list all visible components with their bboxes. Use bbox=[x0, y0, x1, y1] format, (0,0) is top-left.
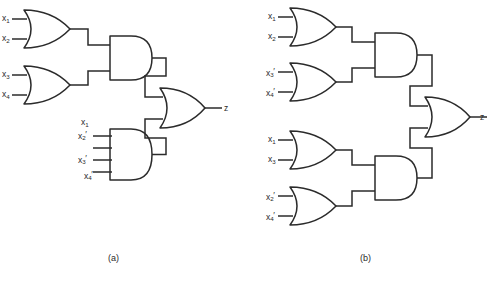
gate-b-and-1 bbox=[375, 33, 417, 77]
label-a-and2-input-x1: x1 bbox=[81, 118, 89, 128]
wire-b-or3-to-and2 bbox=[336, 150, 375, 165]
label-a-and2-input-x3-prime: x3′ bbox=[78, 154, 87, 165]
label-a-or1-input-x2: x2 bbox=[2, 34, 10, 44]
wire-b-or4-to-and2 bbox=[336, 191, 375, 206]
gate-b-or-3 bbox=[290, 131, 336, 169]
wire-a-or1-to-and1 bbox=[70, 29, 110, 45]
label-a-or2-input-x3: x3 bbox=[2, 70, 10, 80]
label-b-or4-input-x2-prime: x2′ bbox=[266, 191, 275, 202]
circuit-svg bbox=[0, 0, 492, 283]
gate-a-or-2 bbox=[24, 66, 70, 104]
label-b-or1-input-x1: x1 bbox=[268, 12, 276, 22]
label-a-and2-input-x4-prime: x4′ bbox=[84, 170, 93, 181]
caption-panel-a: (a) bbox=[108, 253, 119, 263]
label-b-or2-input-x3-prime: x3′ bbox=[266, 67, 275, 78]
label-b-or4-input-x4-prime: x4′ bbox=[266, 211, 275, 222]
label-b-or1-input-x2: x2 bbox=[268, 32, 276, 42]
gate-a-or-out bbox=[160, 88, 205, 128]
label-b-or2-input-x4-prime: x4′ bbox=[266, 87, 275, 98]
wire-a-or2-to-and1 bbox=[70, 71, 110, 85]
gate-b-or-2 bbox=[290, 63, 336, 101]
caption-panel-b: (b) bbox=[360, 253, 371, 263]
wire-b-or1-to-and1 bbox=[336, 27, 375, 42]
gate-b-or-out bbox=[425, 97, 470, 137]
gate-b-and-2 bbox=[375, 156, 417, 200]
gate-a-or-1 bbox=[24, 10, 70, 48]
label-a-output-z: z bbox=[224, 103, 228, 113]
label-b-output-z: z bbox=[480, 112, 484, 122]
panel-b-group bbox=[278, 8, 487, 225]
panel-a-group bbox=[12, 10, 222, 180]
gate-b-or-1 bbox=[290, 8, 336, 46]
label-a-and2-input-x2-prime: x2′ bbox=[78, 130, 87, 141]
label-b-or3-input-x1: x1 bbox=[268, 135, 276, 145]
gate-b-or-4 bbox=[290, 187, 336, 225]
label-a-or2-input-x4: x4 bbox=[2, 90, 10, 100]
label-b-or3-input-x3: x3 bbox=[268, 155, 276, 165]
wire-b-or2-to-and1 bbox=[336, 68, 375, 82]
label-a-or1-input-x1: x1 bbox=[2, 14, 10, 24]
logic-circuit-figure: x1 x2 x3 x4 x1 x2′ x3′ x4′ z (a) x1 x2 x… bbox=[0, 0, 492, 283]
gate-a-and-1 bbox=[110, 36, 152, 80]
